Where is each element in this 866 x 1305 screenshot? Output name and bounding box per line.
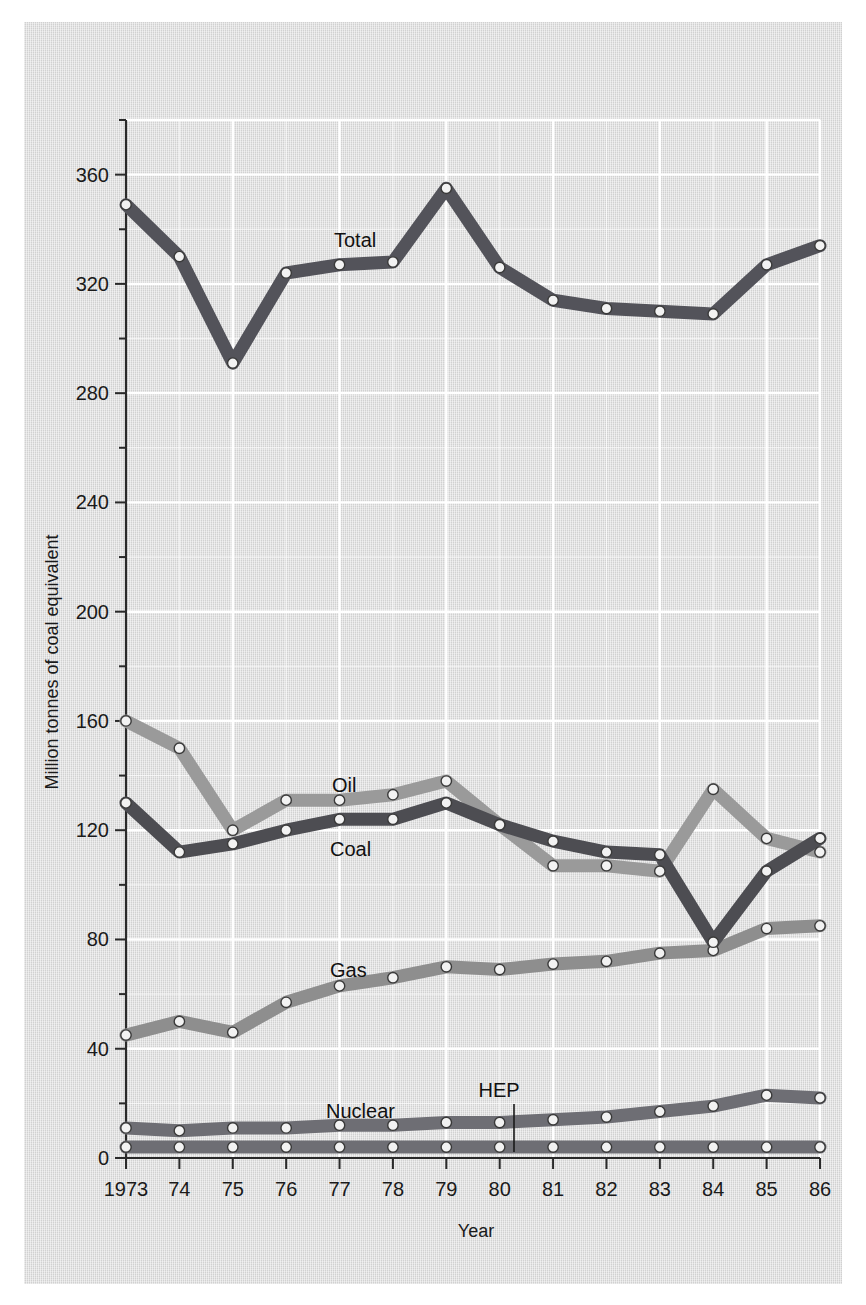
data-point-nuclear-80	[494, 1117, 504, 1127]
data-point-gas-1973	[121, 1030, 131, 1040]
x-tick-label: 74	[168, 1178, 190, 1200]
scanned-chart-paper: 04080120160200240280320360 1973747576777…	[24, 22, 842, 1284]
data-point-gas-76	[281, 997, 291, 1007]
y-tick-label: 120	[76, 819, 109, 841]
data-point-gas-81	[548, 959, 558, 969]
x-tick-label: 85	[755, 1178, 777, 1200]
data-point-oil-82	[601, 861, 611, 871]
data-point-gas-86	[815, 921, 825, 931]
data-point-coal-85	[761, 866, 771, 876]
data-point-total-85	[761, 260, 771, 270]
x-tick-label: 79	[435, 1178, 457, 1200]
data-point-total-79	[441, 183, 451, 193]
y-tick-label: 360	[76, 164, 109, 186]
series-layer	[126, 188, 820, 1147]
data-point-total-82	[601, 303, 611, 313]
data-point-hep-75	[228, 1142, 238, 1152]
x-tick-label: 78	[382, 1178, 404, 1200]
x-tick-label: 84	[702, 1178, 724, 1200]
data-point-nuclear-79	[441, 1117, 451, 1127]
data-point-hep-84	[708, 1142, 718, 1152]
y-tick-label: 200	[76, 601, 109, 623]
series-label-nuclear: Nuclear	[326, 1100, 395, 1122]
data-point-hep-76	[281, 1142, 291, 1152]
data-point-oil-85	[761, 833, 771, 843]
data-point-coal-80	[494, 820, 504, 830]
data-point-oil-86	[815, 847, 825, 857]
data-point-total-83	[655, 306, 665, 316]
x-tick-label: 75	[222, 1178, 244, 1200]
data-point-coal-83	[655, 850, 665, 860]
data-point-total-75	[228, 358, 238, 368]
data-point-oil-84	[708, 784, 718, 794]
data-point-coal-81	[548, 836, 558, 846]
data-point-hep-79	[441, 1142, 451, 1152]
x-tick-label: 86	[809, 1178, 831, 1200]
data-point-oil-81	[548, 861, 558, 871]
data-point-hep-82	[601, 1142, 611, 1152]
data-point-gas-83	[655, 948, 665, 958]
data-point-coal-1973	[121, 798, 131, 808]
line-chart: 04080120160200240280320360 1973747576777…	[24, 22, 842, 1284]
data-point-hep-81	[548, 1142, 558, 1152]
x-tick-label: 82	[595, 1178, 617, 1200]
y-tick-labels: 04080120160200240280320360	[76, 164, 109, 1169]
data-point-nuclear-75	[228, 1123, 238, 1133]
data-point-oil-75	[228, 825, 238, 835]
series-line-total	[126, 188, 820, 363]
series-label-gas: Gas	[330, 959, 367, 981]
y-tick-label: 80	[87, 928, 109, 950]
data-point-nuclear-76	[281, 1123, 291, 1133]
data-point-hep-1973	[121, 1142, 131, 1152]
data-point-total-78	[388, 257, 398, 267]
data-point-gas-77	[334, 981, 344, 991]
data-point-nuclear-74	[174, 1125, 184, 1135]
series-label-coal: Coal	[330, 838, 371, 860]
data-point-total-84	[708, 309, 718, 319]
data-point-gas-78	[388, 973, 398, 983]
data-point-hep-86	[815, 1142, 825, 1152]
data-point-oil-83	[655, 866, 665, 876]
data-point-hep-77	[334, 1142, 344, 1152]
figure-page: 04080120160200240280320360 1973747576777…	[0, 0, 866, 1305]
data-point-nuclear-85	[761, 1090, 771, 1100]
data-point-nuclear-83	[655, 1106, 665, 1116]
series-label-hep: HEP	[478, 1079, 519, 1101]
data-point-total-1973	[121, 199, 131, 209]
data-point-total-86	[815, 240, 825, 250]
x-axis-title: Year	[458, 1221, 494, 1241]
x-tick-label: 76	[275, 1178, 297, 1200]
data-point-nuclear-1973	[121, 1123, 131, 1133]
data-point-coal-79	[441, 798, 451, 808]
data-point-gas-74	[174, 1016, 184, 1026]
data-point-nuclear-82	[601, 1112, 611, 1122]
data-point-gas-82	[601, 956, 611, 966]
data-point-hep-74	[174, 1142, 184, 1152]
data-point-total-76	[281, 268, 291, 278]
data-point-oil-74	[174, 743, 184, 753]
data-point-gas-79	[441, 962, 451, 972]
data-point-nuclear-84	[708, 1101, 718, 1111]
series-label-oil: Oil	[332, 774, 356, 796]
data-point-coal-86	[815, 833, 825, 843]
x-tick-labels: 197374757677787980818283848586	[104, 1178, 831, 1200]
data-point-gas-75	[228, 1027, 238, 1037]
x-tick-label: 1973	[104, 1178, 149, 1200]
data-point-coal-77	[334, 814, 344, 824]
data-point-total-77	[334, 260, 344, 270]
data-point-nuclear-86	[815, 1093, 825, 1103]
grid-layer	[126, 120, 820, 1158]
data-point-coal-82	[601, 847, 611, 857]
data-point-total-81	[548, 295, 558, 305]
y-tick-label: 40	[87, 1038, 109, 1060]
data-point-hep-85	[761, 1142, 771, 1152]
data-point-gas-85	[761, 923, 771, 933]
y-axis-title: Million tonnes of coal equivalent	[42, 534, 62, 789]
data-point-oil-77	[334, 795, 344, 805]
data-point-coal-76	[281, 825, 291, 835]
y-tick-label: 0	[98, 1147, 109, 1169]
data-point-oil-78	[388, 790, 398, 800]
series-label-total: Total	[334, 229, 376, 251]
data-point-total-80	[494, 262, 504, 272]
y-tick-label: 160	[76, 710, 109, 732]
